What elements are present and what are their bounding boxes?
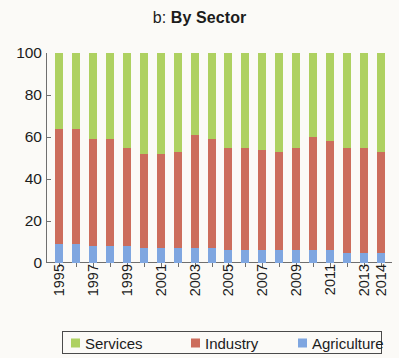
x-tick-label: 1997 [86,264,101,296]
bar[interactable] [309,53,317,263]
bar-segment-industry[interactable] [309,137,317,250]
bar-segment-services[interactable] [258,53,266,150]
bar-segment-agriculture[interactable] [89,246,97,263]
bar-segment-agriculture[interactable] [360,253,368,264]
bar-segment-services[interactable] [343,53,351,148]
legend-item-industry[interactable]: Industry [191,335,258,350]
x-tick-label: 2014 [374,264,389,296]
bar-segment-agriculture[interactable] [208,248,216,263]
bar-segment-industry[interactable] [106,139,114,246]
bar[interactable] [326,53,334,263]
bar-segment-agriculture[interactable] [157,248,165,263]
bar[interactable] [292,53,300,263]
bar-segment-services[interactable] [275,53,283,152]
figure-by-sector: b: By Sector 020406080100 19951997199920… [0,0,399,358]
bar-segment-services[interactable] [360,53,368,148]
y-tick-label: 20 [2,213,42,229]
bar-segment-agriculture[interactable] [72,244,80,263]
bar-segment-industry[interactable] [258,150,266,251]
x-tick-label: 2001 [154,264,169,296]
bar-segment-industry[interactable] [208,139,216,248]
y-axis: 020406080100 [0,53,42,263]
bar-segment-agriculture[interactable] [106,246,114,263]
bar-segment-services[interactable] [224,53,232,148]
bar-segment-agriculture[interactable] [258,250,266,263]
bar[interactable] [224,53,232,263]
bar-segment-services[interactable] [309,53,317,137]
x-tick-label: 2005 [221,264,236,296]
bar[interactable] [191,53,199,263]
bar-segment-industry[interactable] [89,139,97,246]
bar-segment-industry[interactable] [191,135,199,248]
bar-segment-services[interactable] [157,53,165,154]
bar-segment-services[interactable] [191,53,199,135]
bar[interactable] [106,53,114,263]
bar-segment-industry[interactable] [343,148,351,253]
bar-segment-agriculture[interactable] [174,248,182,263]
bar[interactable] [140,53,148,263]
plot-frame [46,53,392,263]
bar[interactable] [208,53,216,263]
bar-segment-services[interactable] [326,53,334,141]
bar-segment-industry[interactable] [174,152,182,249]
bar[interactable] [157,53,165,263]
bar[interactable] [343,53,351,263]
bar-segment-agriculture[interactable] [241,250,249,263]
bar-segment-agriculture[interactable] [224,250,232,263]
legend-label: Industry [205,335,258,350]
bar-segment-services[interactable] [89,53,97,139]
bar-segment-services[interactable] [377,53,385,152]
bar-segment-services[interactable] [55,53,63,129]
bar[interactable] [241,53,249,263]
bar-segment-industry[interactable] [241,148,249,251]
bar-segment-agriculture[interactable] [191,248,199,263]
bar-segment-agriculture[interactable] [343,253,351,264]
y-tick-label: 100 [2,45,42,61]
bar-segment-industry[interactable] [360,148,368,253]
bar-segment-services[interactable] [292,53,300,148]
bar[interactable] [72,53,80,263]
bar[interactable] [55,53,63,263]
bar[interactable] [377,53,385,263]
bar-segment-services[interactable] [241,53,249,148]
bar[interactable] [360,53,368,263]
bar-segment-agriculture[interactable] [292,250,300,263]
x-axis: 1995199719992001200320052007200920112013… [46,264,392,322]
legend-item-agriculture[interactable]: Agriculture [298,335,384,350]
legend-label: Agriculture [312,335,384,350]
bar-segment-industry[interactable] [377,152,385,253]
x-tick-label: 2003 [188,264,203,296]
bar-segment-agriculture[interactable] [275,250,283,263]
bar-segment-industry[interactable] [55,129,63,245]
bar[interactable] [174,53,182,263]
bar-segment-services[interactable] [123,53,131,148]
bar-segment-agriculture[interactable] [377,253,385,264]
bar-segment-industry[interactable] [123,148,131,247]
bar-segment-industry[interactable] [140,154,148,249]
bar-segment-industry[interactable] [157,154,165,249]
bar-segment-industry[interactable] [224,148,232,251]
bar-segment-agriculture[interactable] [309,250,317,263]
bar-segment-industry[interactable] [275,152,283,251]
bar-segment-services[interactable] [174,53,182,152]
y-tick-label: 40 [2,171,42,187]
bar-segment-industry[interactable] [292,148,300,251]
bar-segment-services[interactable] [106,53,114,139]
bar-segment-industry[interactable] [326,141,334,250]
legend-item-services[interactable]: Services [71,335,143,350]
bar[interactable] [258,53,266,263]
bar-segment-agriculture[interactable] [326,250,334,263]
bar-segment-services[interactable] [72,53,80,129]
x-tick-label: 2011 [323,264,338,295]
bar-segment-services[interactable] [208,53,216,139]
bar-segment-agriculture[interactable] [123,246,131,263]
bar[interactable] [89,53,97,263]
legend-swatch-icon [71,338,80,347]
bar-segment-services[interactable] [140,53,148,154]
bar-segment-industry[interactable] [72,129,80,245]
bar[interactable] [275,53,283,263]
bar[interactable] [123,53,131,263]
bar-segment-agriculture[interactable] [140,248,148,263]
y-tick-label: 0 [2,255,42,271]
bar-segment-agriculture[interactable] [55,244,63,263]
